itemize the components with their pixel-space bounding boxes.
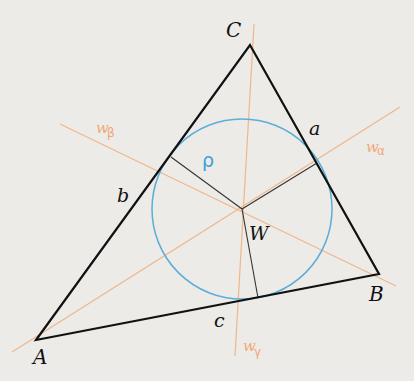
side-label-b: b: [117, 184, 129, 206]
inradius-to-side-a: [242, 163, 317, 209]
diagram-canvas: A B C a b c W ρ w α w β w γ: [0, 0, 414, 381]
vertex-label-c: C: [226, 18, 241, 42]
vertex-label-a: A: [31, 345, 47, 369]
bisector-label-gamma: w γ: [243, 337, 261, 359]
triangle-abc: [36, 45, 379, 340]
bisector-label-alpha-sub: α: [377, 144, 385, 158]
bisector-label-alpha: w α: [366, 138, 385, 158]
side-label-a: a: [309, 117, 320, 139]
bisector-label-beta-sub: β: [107, 126, 115, 140]
incenter-label-w: W: [249, 222, 270, 244]
side-label-c: c: [214, 309, 225, 331]
bisector-label-gamma-sub: γ: [254, 345, 261, 359]
vertex-label-b: B: [368, 282, 384, 306]
inradius-label-rho: ρ: [202, 149, 214, 171]
bisector-alpha-line: [12, 107, 400, 352]
inradius-lines: [171, 157, 317, 298]
incircle-diagram: A B C a b c W ρ w α w β w γ: [0, 0, 414, 381]
bisector-beta-line: [60, 124, 396, 286]
bisector-label-beta: w β: [96, 119, 115, 140]
bisector-gamma-line: [235, 24, 254, 356]
